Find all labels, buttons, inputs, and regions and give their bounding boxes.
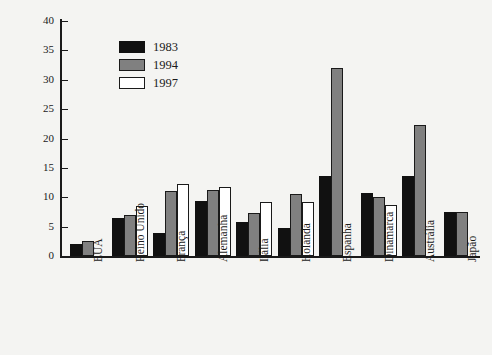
x-axis-category-label: Alemanha bbox=[218, 215, 230, 262]
legend-item[interactable]: 1983 bbox=[119, 39, 178, 55]
y-axis-tick-label: 5 bbox=[32, 221, 54, 232]
legend-label: 1983 bbox=[153, 41, 178, 54]
x-axis-category-label: Holanda bbox=[301, 223, 313, 262]
x-axis-category-label: França bbox=[176, 231, 188, 262]
y-axis-tick-label: 35 bbox=[32, 44, 54, 55]
y-axis-tick-label: 20 bbox=[32, 133, 54, 144]
legend-swatch-1994-icon bbox=[119, 59, 145, 71]
bar-group bbox=[319, 21, 355, 256]
legend-label: 1997 bbox=[153, 77, 178, 90]
y-axis-tick-label: 15 bbox=[32, 162, 54, 173]
bar bbox=[278, 228, 290, 256]
bar-group bbox=[70, 21, 106, 256]
legend-item[interactable]: 1997 bbox=[119, 75, 178, 91]
legend-swatch-1983-icon bbox=[119, 41, 145, 53]
legend-item[interactable]: 1994 bbox=[119, 57, 178, 73]
bar-group bbox=[236, 21, 272, 256]
y-axis-tick-label: 10 bbox=[32, 191, 54, 202]
bar bbox=[236, 222, 248, 256]
figure-container: Percentagem 0510152025303540 EUAReino Un… bbox=[0, 0, 492, 355]
bar bbox=[70, 244, 82, 256]
bar bbox=[361, 193, 373, 256]
bar-group bbox=[444, 21, 480, 256]
y-axis-tick bbox=[62, 256, 68, 257]
legend-label: 1994 bbox=[153, 59, 178, 72]
x-axis-category-label: Japão bbox=[467, 236, 479, 262]
y-axis-tick-label: 25 bbox=[32, 103, 54, 114]
bar bbox=[402, 176, 414, 256]
y-axis-tick-label: 30 bbox=[32, 74, 54, 85]
y-axis-tick-label: 0 bbox=[32, 250, 54, 261]
bar bbox=[195, 201, 207, 256]
bar bbox=[444, 212, 456, 256]
y-axis-title: Percentagem bbox=[0, 83, 1, 150]
y-axis-tick-label: 40 bbox=[32, 15, 54, 26]
bar-group bbox=[278, 21, 314, 256]
x-axis-category-label: Dinamarca bbox=[384, 212, 396, 262]
bar bbox=[319, 176, 331, 256]
legend: 1983 1994 1997 bbox=[119, 39, 178, 93]
x-axis-category-label: EUA bbox=[93, 238, 105, 262]
x-axis-category-label: Reino Unido bbox=[135, 203, 147, 262]
x-axis-category-label: Espanha bbox=[342, 223, 354, 262]
legend-swatch-1997-icon bbox=[119, 77, 145, 89]
x-axis-category-label: Itália bbox=[259, 238, 271, 262]
bar bbox=[112, 218, 124, 256]
x-axis-category-label: Austrália bbox=[425, 220, 437, 262]
bar bbox=[153, 233, 165, 257]
